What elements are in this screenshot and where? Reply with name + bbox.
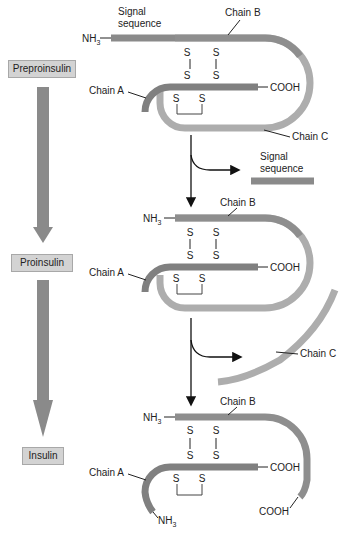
nh3-label: NH3 — [143, 213, 161, 226]
svg-text:S: S — [173, 93, 180, 104]
cooh-label: COOH — [270, 462, 300, 473]
svg-text:S: S — [187, 450, 194, 461]
disulfide-bonds-3: S S S S S S — [173, 425, 220, 495]
cooh-label: COOH — [270, 262, 300, 273]
disulfide-bonds-2: S S S S S S — [173, 227, 220, 294]
svg-text:S: S — [213, 70, 220, 81]
chain-a-label: Chain A — [89, 85, 124, 96]
stage-arrow-1 — [33, 87, 53, 243]
svg-text:S: S — [199, 273, 206, 284]
signal-sequence-label: Signal — [118, 6, 146, 17]
chain-c-label: Chain C — [292, 131, 328, 142]
insulin-processing-diagram: NH3 Signal sequence Chain B COOH Chain A… — [0, 0, 347, 533]
cooh-label-b: COOH — [259, 506, 289, 517]
svg-text:S: S — [213, 450, 220, 461]
svg-text:S: S — [213, 227, 220, 238]
svg-text:S: S — [173, 473, 180, 484]
svg-text:S: S — [184, 47, 191, 58]
signal-sequence-label-2: sequence — [118, 18, 162, 29]
chain-a-label: Chain A — [89, 267, 124, 278]
svg-text:S: S — [184, 70, 191, 81]
chain-b-label: Chain B — [220, 396, 256, 407]
disulfide-bonds-1: S S S S S S — [173, 47, 220, 114]
svg-text:S: S — [187, 227, 194, 238]
stage-arrow-2 — [33, 280, 53, 437]
svg-text:S: S — [213, 425, 220, 436]
svg-text:S: S — [173, 273, 180, 284]
chain-b-label: Chain B — [225, 7, 261, 18]
cooh-label: COOH — [270, 82, 300, 93]
nh3-label-a: NH3 — [158, 515, 176, 528]
released-signal-label: Signal — [260, 151, 288, 162]
chain-b-label: Chain B — [220, 197, 256, 208]
svg-text:S: S — [213, 47, 220, 58]
nh3-label: NH3 — [143, 412, 161, 425]
released-signal-label-2: sequence — [260, 163, 304, 174]
chain-a-label: Chain A — [89, 467, 124, 478]
svg-text:S: S — [213, 250, 220, 261]
svg-text:S: S — [187, 250, 194, 261]
svg-text:S: S — [187, 425, 194, 436]
nh3-label: NH3 — [82, 33, 100, 46]
svg-text:S: S — [199, 473, 206, 484]
svg-text:S: S — [199, 93, 206, 104]
chain-c-label: Chain C — [300, 348, 336, 359]
